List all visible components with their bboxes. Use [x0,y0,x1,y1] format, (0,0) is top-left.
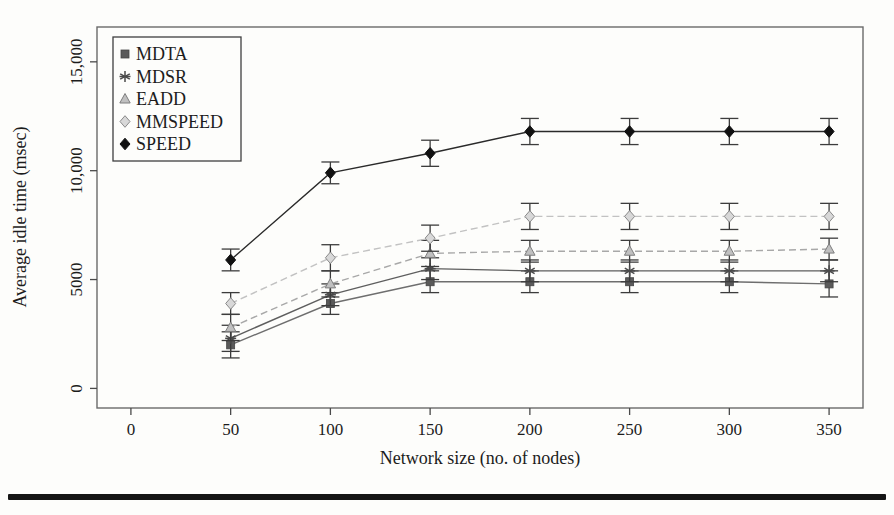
marker-diamond [425,147,435,159]
x-tick-label: 0 [127,420,136,439]
x-tick-label: 200 [517,420,543,439]
marker-asterisk [824,265,835,276]
marker-diamond-light [824,211,834,223]
legend-label-eadd: EADD [136,89,186,109]
marker-diamond-light [325,252,335,264]
x-tick-label: 350 [816,420,842,439]
marker-triangle [525,246,535,256]
legend-label-speed: SPEED [136,134,191,154]
marker-triangle [724,246,734,256]
legend-label-mmspeed: MMSPEED [136,112,223,132]
marker-asterisk [724,265,735,276]
series-mdsr [222,258,838,352]
marker-diamond [824,126,834,138]
marker-diamond-light [724,211,734,223]
figure: 0501001502002503003500500010,00015,000MD… [0,0,894,515]
legend-label-mdta: MDTA [136,44,188,64]
y-tick-label: 5000 [67,263,86,297]
marker-diamond [724,126,734,138]
marker-triangle [225,322,235,332]
y-tick-label: 15,000 [67,38,86,85]
x-tick-label: 300 [717,420,743,439]
marker-diamond-light [425,232,435,244]
x-axis-title: Network size (no. of nodes) [380,448,580,469]
marker-diamond [226,254,236,266]
marker-diamond-light [625,211,635,223]
marker-square [121,50,129,58]
marker-asterisk [624,265,635,276]
line-chart: 0501001502002503003500500010,00015,000MD… [0,0,894,490]
y-tick-label: 10,000 [67,147,86,194]
x-tick-label: 150 [417,420,443,439]
legend-label-mdsr: MDSR [136,67,187,87]
marker-asterisk [524,265,535,276]
x-tick-label: 250 [617,420,643,439]
marker-diamond-light [525,211,535,223]
x-tick-label: 50 [222,420,239,439]
x-tick-label: 100 [318,420,344,439]
marker-triangle [624,246,634,256]
bottom-rule [8,494,886,500]
marker-diamond [625,126,635,138]
legend: MDTAMDSREADDMMSPEEDSPEED [113,37,241,161]
marker-diamond [525,126,535,138]
y-axis-title: Average idle time (msec) [10,126,31,307]
series-mdta [222,271,838,358]
y-tick-label: 0 [67,384,86,393]
marker-triangle [824,244,834,254]
marker-diamond-light [226,298,236,310]
marker-diamond [325,167,335,179]
